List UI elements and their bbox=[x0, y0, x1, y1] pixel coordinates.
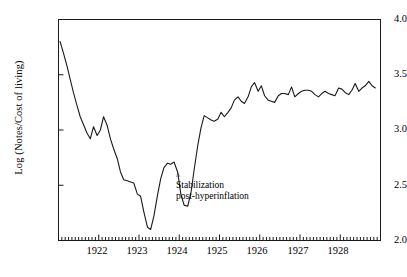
x-tick-label-1926: 1926 bbox=[235, 245, 279, 256]
annotation-line-stabilization: Stabilization bbox=[176, 180, 224, 191]
x-tick-label-1927: 1927 bbox=[276, 245, 320, 256]
axis-frame bbox=[59, 20, 381, 241]
y-axis-label: Log (Notes/Cost of living) bbox=[13, 28, 24, 208]
y-tick-label-2-0: 2.0 bbox=[377, 234, 407, 245]
y-tick-label-4-0: 4.0 bbox=[377, 13, 407, 24]
x-tick-label-1923: 1923 bbox=[115, 245, 159, 256]
chart-figure: Log (Notes/Cost of living) 4.0 3.5 3.0 2… bbox=[0, 0, 407, 277]
y-tick-label-2-5: 2.5 bbox=[377, 179, 407, 190]
x-tick-label-1925: 1925 bbox=[195, 245, 239, 256]
x-tick-label-1922: 1922 bbox=[75, 245, 119, 256]
y-tick-label-3-5: 3.5 bbox=[377, 68, 407, 79]
plot-area bbox=[0, 0, 407, 277]
annotation-line-post-hyperinflation: post-hyperinflation bbox=[176, 191, 249, 202]
x-tick-label-1924: 1924 bbox=[155, 245, 199, 256]
x-tick-label-1928: 1928 bbox=[316, 245, 360, 256]
y-tick-label-3-0: 3.0 bbox=[377, 123, 407, 134]
